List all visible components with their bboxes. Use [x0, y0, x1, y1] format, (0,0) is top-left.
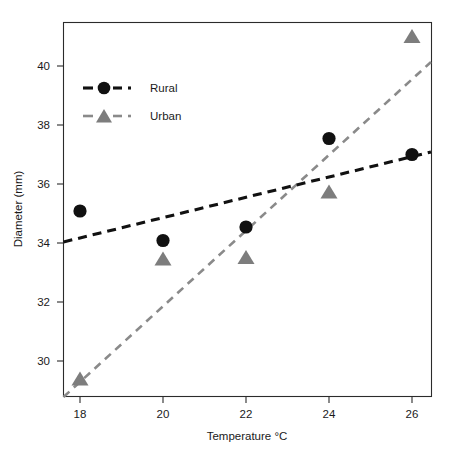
y-tick-label: 38 — [37, 119, 50, 131]
y-tick-label: 32 — [37, 296, 50, 308]
chart-figure: 18 20 22 24 26 30 32 34 36 38 40 Tempera… — [0, 0, 451, 458]
y-tick-label: 40 — [37, 60, 50, 72]
x-axis-ticks — [80, 397, 412, 404]
y-axis-title: Diameter (mm) — [12, 171, 24, 248]
data-point-urban — [72, 372, 89, 386]
legend-entry-rural[interactable]: Rural — [83, 82, 177, 95]
data-point-rural — [322, 132, 335, 145]
urban-data-points — [72, 29, 421, 386]
x-axis-title: Temperature °C — [207, 430, 288, 442]
y-axis-tick-labels: 30 32 34 36 38 40 — [37, 60, 50, 367]
triangle-marker-icon — [96, 109, 112, 123]
data-point-urban — [155, 252, 172, 266]
y-tick-label: 34 — [37, 237, 50, 249]
data-point-urban — [238, 250, 255, 264]
rural-data-points — [73, 132, 418, 247]
x-axis-tick-labels: 18 20 22 24 26 — [74, 408, 419, 420]
data-point-urban — [321, 185, 338, 199]
data-point-rural — [239, 220, 252, 233]
y-tick-label: 36 — [37, 178, 50, 190]
legend-label-urban: Urban — [150, 110, 181, 122]
legend-label-rural: Rural — [150, 82, 177, 94]
circle-marker-icon — [98, 82, 111, 95]
plot-frame — [64, 23, 432, 397]
legend-entry-urban[interactable]: Urban — [83, 109, 181, 123]
x-tick-label: 20 — [157, 408, 170, 420]
x-tick-label: 22 — [240, 408, 253, 420]
x-tick-label: 24 — [323, 408, 336, 420]
x-tick-label: 18 — [74, 408, 87, 420]
scatter-plot-svg: 18 20 22 24 26 30 32 34 36 38 40 Tempera… — [0, 0, 451, 458]
data-point-rural — [73, 204, 86, 217]
y-tick-label: 30 — [37, 355, 50, 367]
x-tick-label: 26 — [406, 408, 419, 420]
data-point-urban — [404, 29, 421, 43]
data-point-rural — [156, 234, 169, 247]
chart-legend: Rural Urban — [83, 82, 181, 123]
y-axis-ticks — [57, 66, 64, 361]
data-point-rural — [405, 148, 418, 161]
